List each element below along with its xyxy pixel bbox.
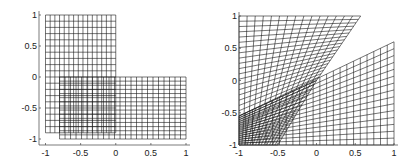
y-tick-label: 0.5: [224, 43, 237, 53]
x-tick-label: -0.5: [270, 148, 286, 158]
right-mapped-mesh-plot: -1-0.500.51-1-0.500.51: [0, 0, 412, 168]
figure: -1-0.500.51-1-0.500.51 -1-0.500.51-1-0.5…: [0, 0, 412, 168]
y-tick-label: -0.5: [221, 108, 237, 118]
x-tick-label: 0.5: [349, 148, 362, 158]
x-tick-label: 0: [314, 148, 319, 158]
x-tick-label: 1: [391, 148, 396, 158]
y-tick-label: -1: [229, 140, 237, 150]
y-tick-label: 0: [232, 76, 237, 86]
y-tick-label: 1: [232, 11, 237, 21]
